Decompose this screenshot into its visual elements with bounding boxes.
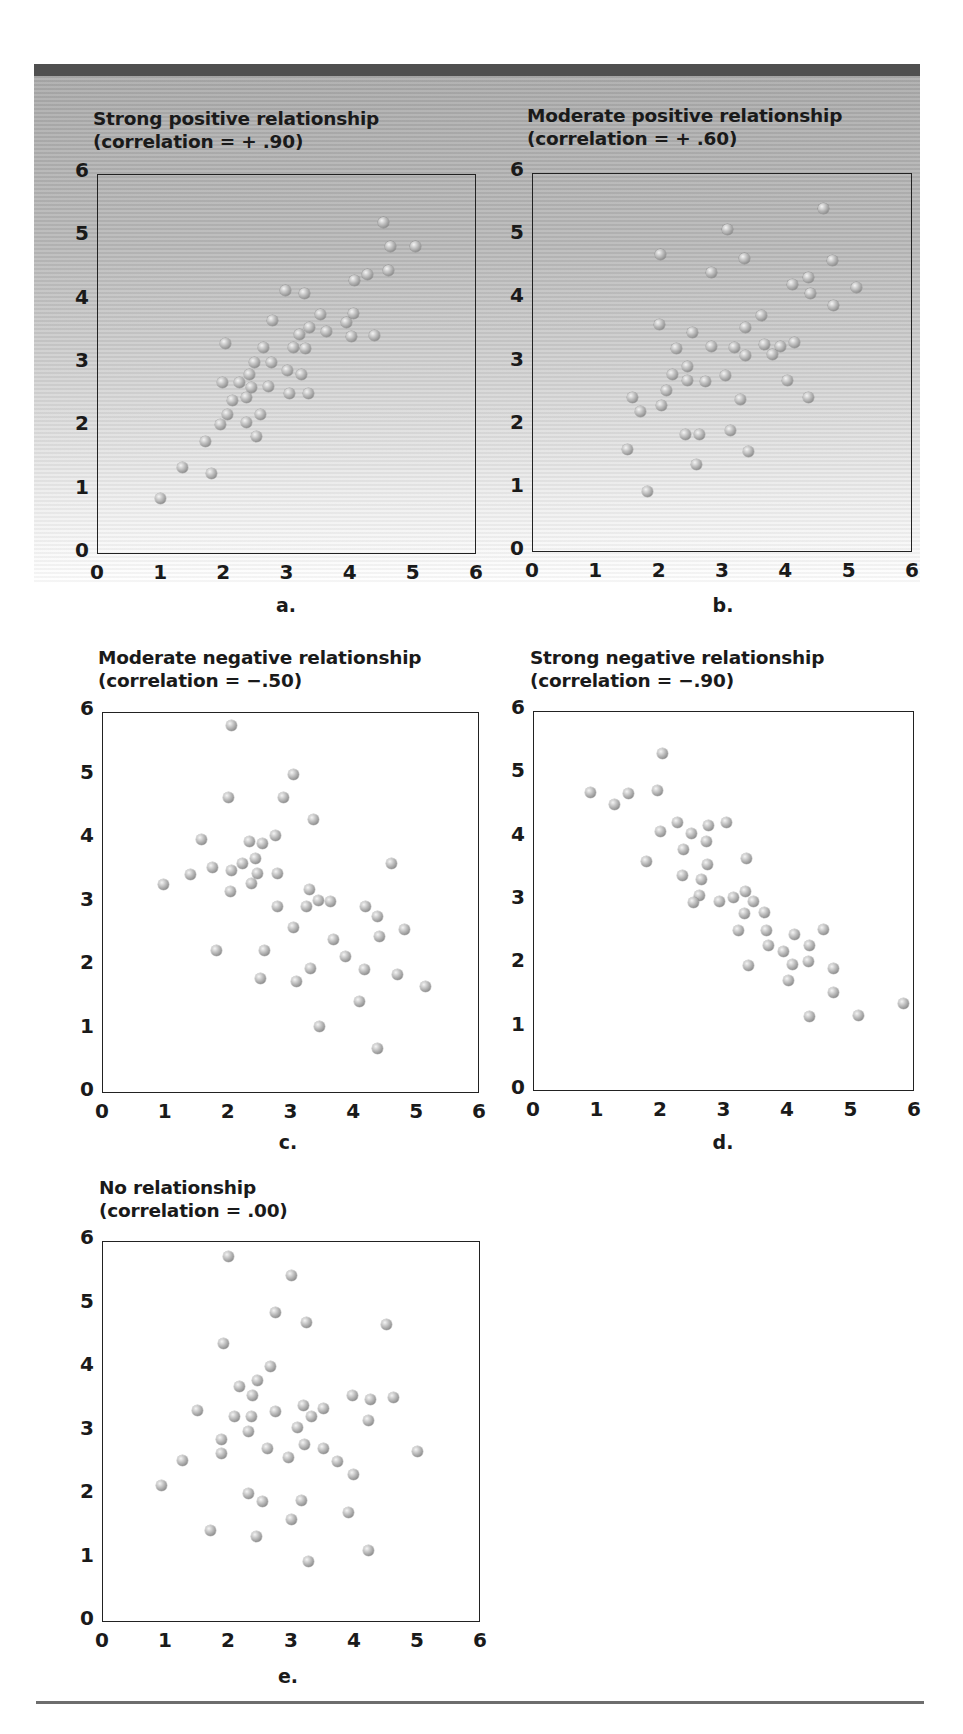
scatter-point: [741, 853, 752, 864]
y-tick-label: 0: [74, 1079, 94, 1099]
x-tick-label: 6: [466, 562, 486, 582]
x-tick-label: 5: [406, 1101, 426, 1121]
x-tick-label: 5: [407, 1630, 427, 1650]
y-tick-label: 6: [74, 698, 94, 718]
y-tick-label: 4: [69, 287, 89, 307]
scatter-point: [288, 342, 299, 353]
x-tick-label: 0: [522, 560, 542, 580]
scatter-point: [220, 338, 231, 349]
panel-c-title-text: Moderate negative relationship: [98, 646, 421, 669]
x-tick-label: 6: [904, 1099, 924, 1119]
top-divider-bar: [34, 64, 920, 76]
scatter-point: [682, 361, 693, 372]
scatter-point: [286, 1270, 297, 1281]
scatter-point: [688, 897, 699, 908]
scatter-point: [828, 300, 839, 311]
scatter-point: [306, 1411, 317, 1422]
x-tick-label: 0: [523, 1099, 543, 1119]
scatter-point: [270, 1307, 281, 1318]
scatter-point: [155, 493, 166, 504]
scatter-point: [728, 892, 739, 903]
scatter-point: [641, 856, 652, 867]
x-tick-label: 1: [155, 1630, 175, 1650]
scatter-point: [782, 375, 793, 386]
scatter-point: [288, 922, 299, 933]
scatter-point: [635, 406, 646, 417]
scatter-point: [328, 934, 339, 945]
x-tick-label: 1: [587, 1099, 607, 1119]
panel-d-caption: d.: [703, 1131, 743, 1153]
x-tick-label: 4: [343, 1101, 363, 1121]
scatter-point: [217, 377, 228, 388]
scatter-point: [299, 288, 310, 299]
scatter-point: [720, 370, 731, 381]
panel-e-correlation: (correlation = .00): [99, 1199, 288, 1222]
scatter-point: [321, 326, 332, 337]
y-tick-label: 1: [504, 475, 524, 495]
scatter-point: [828, 987, 839, 998]
scatter-point: [733, 925, 744, 936]
y-tick-label: 3: [504, 349, 524, 369]
y-tick-label: 2: [504, 412, 524, 432]
scatter-point: [343, 1507, 354, 1518]
scatter-point: [265, 1361, 276, 1372]
scatter-point: [313, 895, 324, 906]
x-tick-label: 4: [340, 562, 360, 582]
scatter-point: [680, 429, 691, 440]
y-tick-label: 3: [505, 887, 525, 907]
y-tick-label: 3: [74, 889, 94, 909]
x-tick-label: 1: [585, 560, 605, 580]
x-tick-label: 1: [150, 562, 170, 582]
scatter-point: [246, 1411, 257, 1422]
scatter-point: [700, 376, 711, 387]
scatter-point: [362, 269, 373, 280]
x-tick-label: 6: [469, 1101, 489, 1121]
scatter-point: [827, 255, 838, 266]
scatter-point: [623, 788, 634, 799]
y-tick-label: 2: [74, 952, 94, 972]
scatter-point: [740, 886, 751, 897]
x-tick-label: 4: [775, 560, 795, 580]
scatter-point: [722, 224, 733, 235]
panel-a-caption: a.: [266, 594, 306, 616]
panel-a-correlation: (correlation = + .90): [93, 130, 379, 153]
scatter-point: [412, 1446, 423, 1457]
scatter-point: [296, 369, 307, 380]
y-tick-label: 0: [505, 1077, 525, 1097]
y-tick-label: 4: [74, 825, 94, 845]
y-tick-label: 2: [69, 413, 89, 433]
scatter-point: [686, 828, 697, 839]
scatter-point: [283, 1452, 294, 1463]
y-tick-label: 6: [74, 1227, 94, 1247]
y-tick-label: 5: [505, 760, 525, 780]
y-tick-label: 1: [505, 1014, 525, 1034]
scatter-point: [803, 956, 814, 967]
y-tick-label: 3: [69, 350, 89, 370]
panel-e-title-text: No relationship: [99, 1176, 288, 1199]
scatter-point: [652, 785, 663, 796]
scatter-point: [255, 973, 266, 984]
scatter-point: [252, 1375, 263, 1386]
scatter-point: [657, 748, 668, 759]
panel-d-title-text: Strong negative relationship: [530, 646, 824, 669]
y-tick-label: 1: [74, 1545, 94, 1565]
scatter-point: [272, 901, 283, 912]
scatter-point: [257, 838, 268, 849]
y-tick-label: 6: [505, 697, 525, 717]
scatter-point: [828, 963, 839, 974]
x-tick-label: 3: [714, 1099, 734, 1119]
y-tick-label: 5: [74, 762, 94, 782]
panel-a-title: Strong positive relationship (correlatio…: [93, 107, 379, 153]
panel-b-title-text: Moderate positive relationship: [527, 104, 842, 127]
scatter-point: [196, 834, 207, 845]
scatter-point: [262, 1443, 273, 1454]
scatter-point: [748, 896, 759, 907]
x-tick-label: 5: [839, 560, 859, 580]
scatter-point: [270, 830, 281, 841]
y-tick-label: 5: [69, 223, 89, 243]
x-tick-label: 3: [277, 562, 297, 582]
scatter-point: [655, 249, 666, 260]
scatter-point: [804, 1011, 815, 1022]
x-tick-label: 6: [902, 560, 922, 580]
scatter-point: [385, 241, 396, 252]
